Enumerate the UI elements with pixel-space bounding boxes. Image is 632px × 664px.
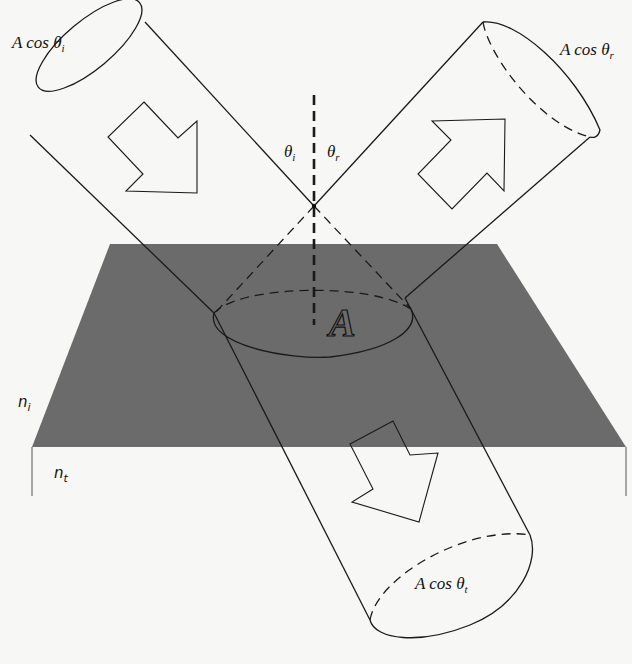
- reflected-area-sub: r: [610, 49, 614, 61]
- interface-surface: [32, 244, 626, 447]
- reflected-area-label: A cos θr: [560, 40, 614, 61]
- n-t-symbol: n: [54, 464, 64, 482]
- beam-diagram: A: [0, 0, 632, 664]
- theta-r-label: θr: [327, 142, 340, 163]
- reflected-area-text: A cos θ: [560, 40, 610, 59]
- n-i-sub: i: [28, 401, 31, 414]
- transmitted-area-label: A cos θt: [415, 574, 468, 595]
- lower-medium: [32, 447, 626, 496]
- incidence-point: [312, 204, 316, 208]
- theta-r-sub: r: [335, 151, 339, 163]
- reflected-arrow-icon: [418, 119, 505, 209]
- n-t-label: nt: [54, 464, 68, 485]
- incident-arrow-icon: [108, 102, 197, 193]
- n-t-sub: t: [64, 472, 68, 485]
- theta-i-sub: i: [292, 151, 295, 163]
- n-i-label: ni: [18, 393, 31, 414]
- incident-area-label: A cos θi: [12, 33, 65, 54]
- incident-area-sub: i: [62, 42, 65, 54]
- area-symbol: A: [326, 300, 356, 345]
- transmitted-area-text: A cos θ: [415, 574, 465, 593]
- incident-area-text: A cos θ: [12, 33, 62, 52]
- theta-i-label: θi: [284, 142, 295, 163]
- transmitted-area-sub: t: [465, 583, 468, 595]
- n-i-symbol: n: [18, 393, 28, 411]
